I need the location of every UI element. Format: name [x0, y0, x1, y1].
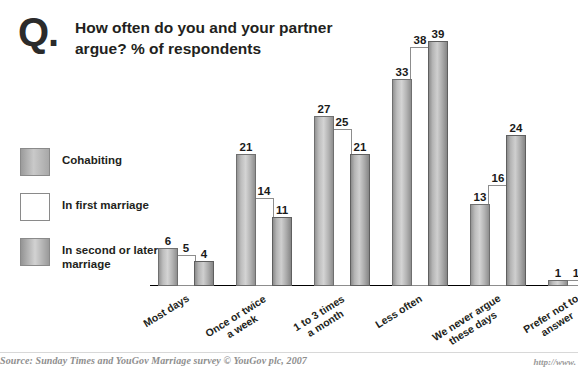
category-label-1: Once or twicea week [203, 292, 274, 349]
footer-divider [0, 352, 578, 353]
bar-value-label: 1 [566, 267, 578, 279]
category-label-4: We never arguethese days [430, 292, 509, 354]
bar-3-2 [428, 41, 448, 286]
bar-2-0 [314, 116, 334, 286]
bar-1-2 [272, 217, 292, 286]
bar-value-label: 13 [470, 191, 490, 203]
chart-legend: Cohabiting In first marriage In second o… [20, 148, 170, 288]
source-note: Source: Sunday Times and YouGov Marriage… [0, 355, 307, 366]
bar-value-label: 16 [488, 172, 508, 184]
category-label-2: 1 to 3 timesa month [291, 292, 353, 343]
bar-4-1 [488, 185, 508, 286]
bar-value-label: 38 [410, 34, 430, 46]
bar-0-1 [176, 255, 196, 286]
bar-value-label: 14 [254, 185, 274, 197]
bar-3-1 [410, 47, 430, 286]
legend-item-second-marriage: In second or later marriage [20, 238, 170, 271]
category-label-0: Most days [141, 292, 191, 329]
bar-2-2 [350, 154, 370, 286]
bar-value-label: 24 [506, 122, 526, 134]
bar-value-label: 21 [350, 141, 370, 153]
bar-value-label: 25 [332, 116, 352, 128]
category-label-3: Less often [373, 292, 424, 330]
bar-value-label: 33 [392, 66, 412, 78]
legend-label: Cohabiting [62, 148, 122, 167]
bar-value-label: 21 [236, 141, 256, 153]
bar-2-1 [332, 129, 352, 286]
second-marriage-swatch-icon [20, 238, 50, 266]
legend-item-first-marriage: In first marriage [20, 193, 170, 221]
bar-value-label: 1 [548, 267, 568, 279]
bar-value-label: 6 [158, 235, 178, 247]
bar-value-label: 5 [176, 242, 196, 254]
bar-chart-plot-area: 654211411272521333839131624111 [150, 10, 578, 286]
chart-screenshot: Q. How often do you and your partner arg… [0, 0, 578, 376]
bar-3-0 [392, 79, 412, 286]
bar-value-label: 11 [272, 204, 292, 216]
bar-4-0 [470, 204, 490, 286]
first-marriage-swatch-icon [20, 193, 50, 221]
footer-url: http://www. [534, 357, 576, 367]
bar-5-0 [548, 280, 568, 286]
bar-value-label: 39 [428, 28, 448, 40]
category-label-5: Prefer not toanswer [521, 292, 578, 345]
question-mark-glyph: Q. [18, 12, 58, 52]
legend-label: In first marriage [62, 193, 149, 212]
bar-0-0 [158, 248, 178, 286]
bar-4-2 [506, 135, 526, 286]
bar-0-2 [194, 261, 214, 286]
legend-item-cohabiting: Cohabiting [20, 148, 170, 176]
cohabiting-swatch-icon [20, 148, 50, 176]
bar-value-label: 27 [314, 103, 334, 115]
bar-1-1 [254, 198, 274, 286]
bar-value-label: 4 [194, 248, 214, 260]
bar-1-0 [236, 154, 256, 286]
